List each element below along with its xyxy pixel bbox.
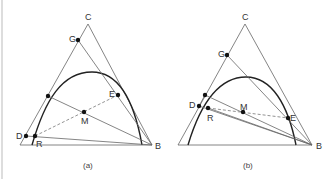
label-b-b: B: [316, 141, 322, 151]
point-e-a: [116, 93, 120, 97]
label-c-b: C: [242, 12, 249, 22]
line-d-b-a: [26, 136, 152, 145]
point-left-a: [46, 94, 50, 98]
label-e-a: E: [109, 89, 115, 99]
label-c-a: C: [85, 12, 92, 22]
panel-b: C G M D R E B (b): [178, 12, 322, 170]
label-d-b: D: [189, 100, 196, 110]
dashed-r-e-a: [35, 95, 118, 136]
label-e-b: E: [290, 113, 296, 123]
point-g-a: [76, 38, 80, 42]
label-r-b: R: [207, 113, 214, 123]
solubility-curve-a: [32, 72, 142, 145]
point-d-a: [24, 134, 28, 138]
point-d-b: [197, 104, 201, 108]
triangle-a: [20, 24, 152, 145]
point-top-left-b: [203, 93, 207, 97]
point-r-b: [206, 106, 210, 110]
point-r-a: [33, 134, 37, 138]
caption-a: (a): [83, 161, 93, 170]
point-g-b: [225, 53, 229, 57]
label-r-a: R: [36, 139, 43, 149]
label-m-a: M: [81, 116, 89, 126]
line-r-b-b: [208, 108, 312, 145]
label-m-b: M: [240, 102, 248, 112]
label-g-a: G: [69, 34, 76, 44]
ternary-diagram-figure: C G E M D R B (a) C G M D R: [0, 0, 332, 179]
label-d-a: D: [16, 131, 23, 141]
label-g-b: G: [218, 49, 225, 59]
caption-b: (b): [243, 161, 253, 170]
point-m-a: [82, 110, 86, 114]
panel-a: C G E M D R B (a): [16, 12, 161, 170]
label-b-a: B: [155, 141, 161, 151]
